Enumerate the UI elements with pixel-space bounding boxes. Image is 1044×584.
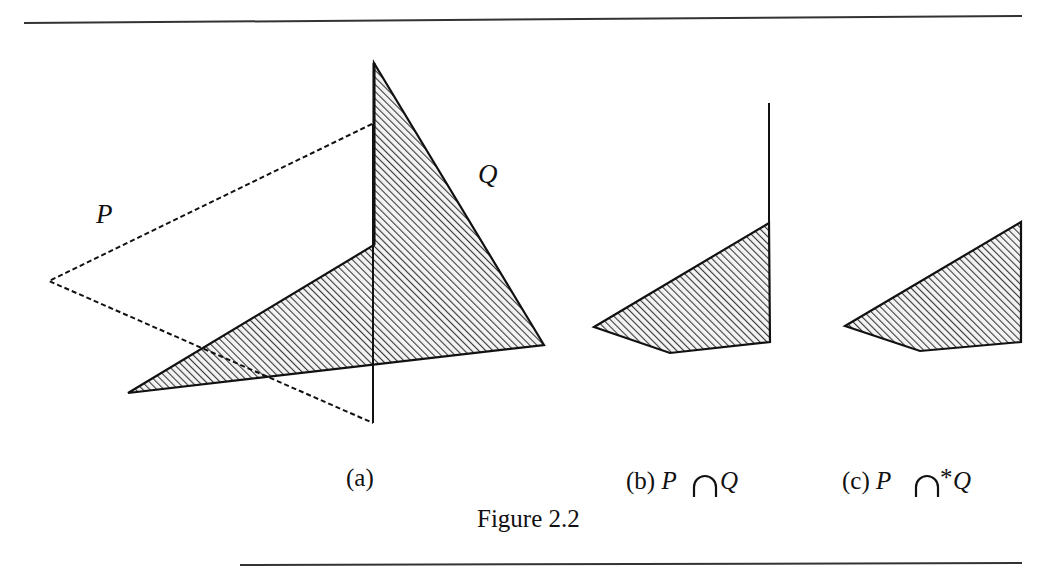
caption-b: (b) P <box>626 467 677 495</box>
caption-b-q: Q <box>720 467 738 494</box>
caption-b-p: P <box>660 467 676 494</box>
caption-b-prefix: (b) <box>626 467 661 495</box>
panel-a: P Q (a) <box>49 63 544 492</box>
caption-c-star: * <box>940 464 953 491</box>
label-q: Q <box>478 159 498 189</box>
caption-c: (c) P <box>842 467 891 495</box>
label-p: P <box>95 199 113 229</box>
caption-c-prefix: (c) <box>842 467 876 495</box>
caption-c-q: Q <box>953 467 971 494</box>
intersection-polygon <box>594 223 770 353</box>
panel-c: (c) P * Q <box>842 222 1021 497</box>
panel-b: (b) P Q <box>594 103 770 497</box>
bottom-rule <box>240 563 1022 565</box>
intersection-operator-icon <box>694 476 716 497</box>
regularized-intersection-operator-icon <box>916 476 938 497</box>
figure-2-2: P Q (a) (b) P Q (c) P * Q Figure 2.2 <box>0 0 1044 584</box>
caption-c-p: P <box>875 467 891 494</box>
caption-a: (a) <box>346 464 374 492</box>
figure-title: Figure 2.2 <box>477 505 580 532</box>
regularized-intersection-polygon <box>845 222 1021 351</box>
top-rule <box>24 16 1022 23</box>
